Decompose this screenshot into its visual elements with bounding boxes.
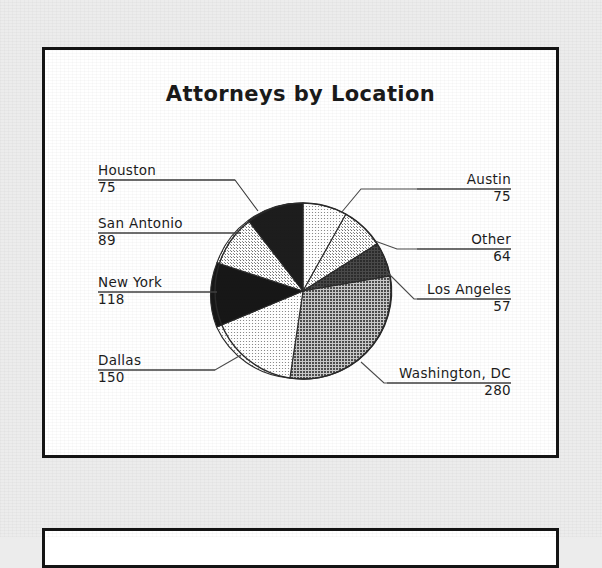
pie-chart-plot-area: Houston 75 San Antonio 89 New York 118 D… — [45, 50, 556, 455]
callout-washington-dc[interactable]: Washington, DC 280 — [331, 365, 511, 400]
callout-other-label: Other — [351, 231, 511, 248]
callout-houston-label: Houston — [98, 162, 156, 179]
chart-panel: Attorneys by Location — [42, 47, 559, 458]
callout-austin-label: Austin — [351, 171, 511, 188]
callout-new-york[interactable]: New York 118 — [98, 274, 162, 309]
callout-washington-dc-value: 280 — [331, 382, 511, 399]
callout-washington-dc-label: Washington, DC — [331, 365, 511, 382]
callout-new-york-value: 118 — [98, 291, 162, 308]
callout-los-angeles-value: 57 — [351, 298, 511, 315]
callout-austin-value: 75 — [351, 188, 511, 205]
callout-dallas-label: Dallas — [98, 352, 141, 369]
callout-austin[interactable]: Austin 75 — [351, 171, 511, 206]
callout-other-value: 64 — [351, 248, 511, 265]
callout-dallas-value: 150 — [98, 369, 141, 386]
callout-san-antonio-value: 89 — [98, 232, 183, 249]
callout-san-antonio-label: San Antonio — [98, 215, 183, 232]
callout-los-angeles[interactable]: Los Angeles 57 — [351, 281, 511, 316]
callout-houston[interactable]: Houston 75 — [98, 162, 156, 197]
callout-houston-value: 75 — [98, 179, 156, 196]
callout-los-angeles-label: Los Angeles — [351, 281, 511, 298]
callout-new-york-label: New York — [98, 274, 162, 291]
callout-san-antonio[interactable]: San Antonio 89 — [98, 215, 183, 250]
callout-dallas[interactable]: Dallas 150 — [98, 352, 141, 387]
callout-other[interactable]: Other 64 — [351, 231, 511, 266]
next-panel — [42, 528, 559, 568]
